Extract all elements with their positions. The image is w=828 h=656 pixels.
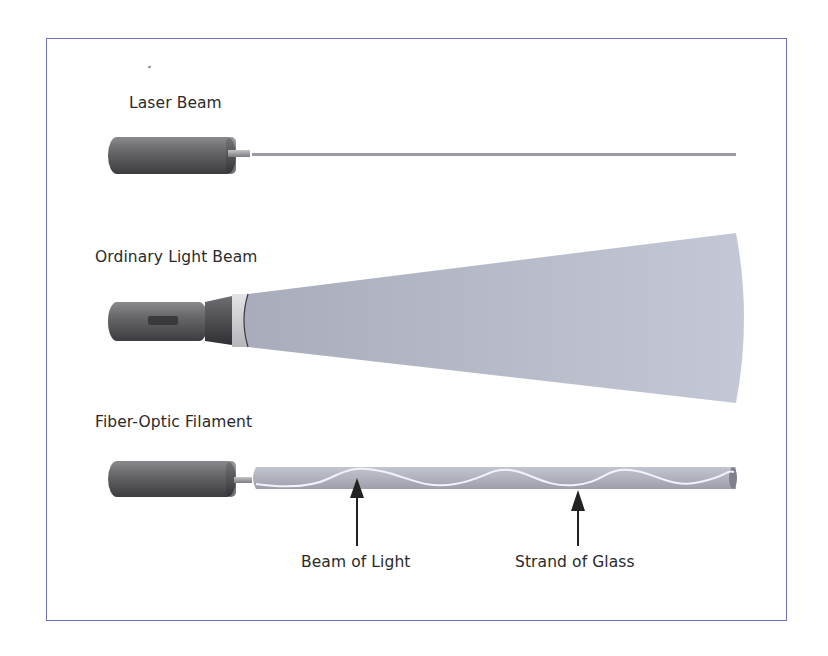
flashlight [108,294,248,347]
fiber-emitter [108,461,252,497]
laser-beam [252,153,736,156]
label-strand-of-glass: Strand of Glass [515,553,635,571]
laser-emitter [108,137,250,174]
title-fiber-optic-filament: Fiber-Optic Filament [95,413,252,431]
light-cone [244,233,744,403]
title-laser-beam: Laser Beam [129,94,222,112]
title-ordinary-light-beam: Ordinary Light Beam [95,248,258,266]
strand-of-glass-arrow [571,490,585,546]
label-beam-of-light: Beam of Light [301,553,411,571]
diagram-artwork [0,0,828,656]
